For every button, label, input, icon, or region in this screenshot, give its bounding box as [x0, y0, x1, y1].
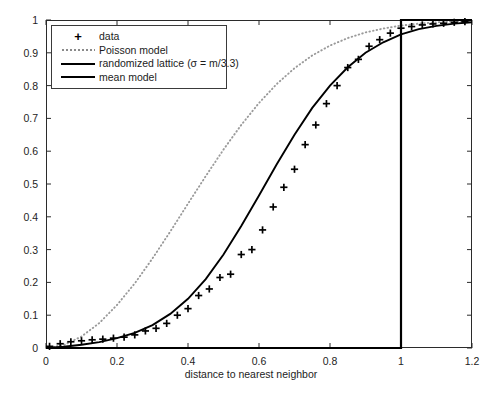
- x-axis-tick-label: 0.2: [110, 355, 125, 367]
- y-axis-tick-label: 0.5: [2, 178, 38, 190]
- x-axis-label: distance to nearest neighbor: [0, 368, 502, 380]
- dotted-line-icon: [57, 44, 99, 57]
- thick-solid-line-icon: [57, 71, 99, 84]
- x-axis-tick-label: 1: [398, 355, 404, 367]
- y-axis-tick-label: 0.9: [2, 47, 38, 59]
- x-axis-tick-label: 0.4: [181, 355, 196, 367]
- y-axis-tick-label: 0: [2, 342, 38, 354]
- legend-label-randomized-lattice: randomized lattice (σ = m/3.3): [99, 57, 239, 70]
- y-axis-tick-label: 0.3: [2, 244, 38, 256]
- x-axis-tick-label: 0.8: [323, 355, 338, 367]
- y-axis-tick-label: 0.4: [2, 211, 38, 223]
- x-axis-tick-label: 0: [43, 355, 49, 367]
- legend-item-data: + data: [52, 30, 226, 44]
- plus-marker-icon: +: [57, 30, 99, 43]
- legend-label-mean-model: mean model: [99, 71, 157, 84]
- solid-line-icon: [57, 57, 99, 70]
- chart-legend: + data Poisson model randomized lattice …: [51, 25, 227, 89]
- y-axis-tick-label: 0.7: [2, 112, 38, 124]
- legend-item-poisson-model: Poisson model: [52, 44, 226, 58]
- legend-item-mean-model: mean model: [52, 71, 226, 85]
- y-axis-tick-label: 0.2: [2, 276, 38, 288]
- y-axis-tick-label: 0.1: [2, 309, 38, 321]
- legend-item-randomized-lattice: randomized lattice (σ = m/3.3): [52, 57, 226, 71]
- chart-figure: 00.10.20.30.40.50.60.70.80.91 00.20.40.6…: [0, 0, 502, 399]
- legend-label-data: data: [99, 30, 119, 43]
- y-axis-tick-label: 1: [2, 14, 38, 26]
- x-axis-tick-label: 0.6: [252, 355, 267, 367]
- x-axis-tick-label: 1.2: [465, 355, 480, 367]
- legend-label-poisson-model: Poisson model: [99, 44, 168, 57]
- y-axis-tick-label: 0.6: [2, 145, 38, 157]
- y-axis-tick-label: 0.8: [2, 80, 38, 92]
